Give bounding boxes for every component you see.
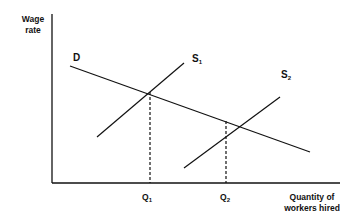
supply-curve-1 bbox=[97, 63, 184, 137]
q1-label: Q1 bbox=[142, 192, 153, 203]
x-axis-label-line1: Quantity of bbox=[290, 192, 335, 202]
supply-2-label: S2 bbox=[281, 69, 292, 81]
labor-market-diagram: Wage rate Quantity of workers hired D S1… bbox=[0, 0, 355, 220]
supply-curve-2-visible bbox=[184, 97, 280, 168]
supply-1-label: S1 bbox=[192, 53, 203, 65]
demand-label: D bbox=[73, 52, 80, 63]
y-axis-label-line2: rate bbox=[25, 25, 41, 35]
x-axis-label-line2: workers hired bbox=[283, 203, 340, 213]
demand-curve bbox=[70, 66, 310, 152]
y-axis-label-line1: Wage bbox=[22, 14, 45, 24]
q2-label: Q2 bbox=[220, 192, 231, 203]
